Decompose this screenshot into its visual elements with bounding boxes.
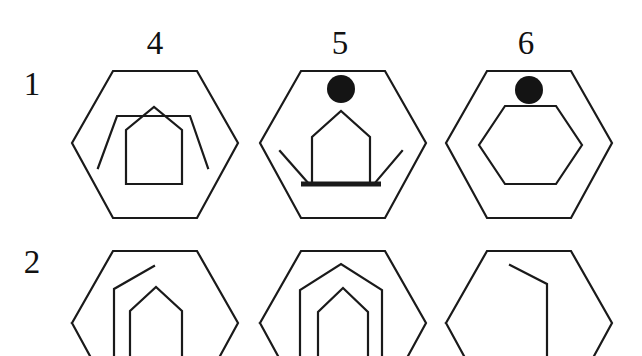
inner-hexagon-shape	[479, 106, 582, 184]
house-pentagon-shape	[312, 111, 370, 184]
wing-line-left-shape	[280, 151, 309, 184]
house-pentagon-shape	[130, 287, 182, 356]
column-header-5: 5	[310, 27, 370, 60]
bent-line-shape	[510, 265, 547, 356]
inner-house-pentagon-shape	[318, 288, 368, 356]
house-pentagon-shape	[126, 107, 182, 184]
outer-hexagon-shape	[446, 251, 612, 356]
outer-hexagon-shape	[72, 251, 238, 356]
column-header-4: 4	[125, 27, 185, 60]
filled-circle-marker	[327, 75, 355, 103]
matrix-cell-2-4	[60, 240, 246, 356]
matrix-cell-1-6	[434, 62, 620, 230]
outer-hexagon-shape	[72, 71, 238, 218]
outer-house-pentagon-shape	[300, 264, 382, 356]
matrix-cell-2-6	[434, 240, 620, 356]
outer-hexagon-shape	[260, 251, 426, 356]
row-header-1: 1	[10, 68, 54, 101]
filled-circle-marker	[515, 76, 543, 104]
matrix-cell-1-4	[60, 62, 246, 230]
wing-band-shape	[98, 116, 208, 168]
matrix-cell-1-5	[248, 62, 434, 230]
wing-line-right-shape	[374, 151, 402, 184]
row-header-2: 2	[10, 246, 54, 279]
matrix-cell-2-5	[248, 240, 434, 356]
bent-line-shape	[114, 266, 154, 356]
column-header-6: 6	[496, 27, 556, 60]
